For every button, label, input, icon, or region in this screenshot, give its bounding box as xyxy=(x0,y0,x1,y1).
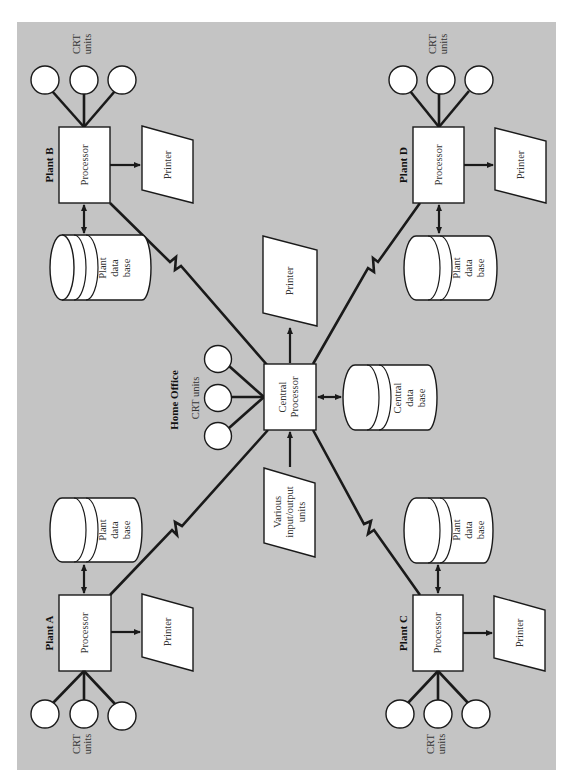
printer-label: Printer xyxy=(515,150,526,179)
io-units-label: Various xyxy=(272,496,283,528)
plant-label: Plant A xyxy=(43,615,55,650)
crt-unit-icon[interactable] xyxy=(462,700,490,728)
crt-unit-icon[interactable] xyxy=(205,346,232,373)
crt-label: units xyxy=(82,34,93,54)
database-label: base xyxy=(121,520,132,539)
database-label: Plant xyxy=(451,257,462,279)
printer-label: Printer xyxy=(162,150,173,179)
database-label: data xyxy=(463,259,474,277)
crt-unit-icon[interactable] xyxy=(424,700,452,728)
crt-unit-icon[interactable] xyxy=(205,385,232,412)
crt-label: CRT xyxy=(427,34,438,54)
database-label: Plant xyxy=(97,519,108,541)
central-processor-label: Central xyxy=(277,381,288,412)
home-office-label: Home Office xyxy=(168,370,180,430)
processor-label: Processor xyxy=(432,612,443,653)
database-label: Plant xyxy=(451,519,462,541)
printer-label: Printer xyxy=(284,266,295,295)
database-label: base xyxy=(475,258,486,277)
crt-label: CRT xyxy=(425,734,436,754)
io-units-label: units xyxy=(296,502,307,522)
database-label: Central xyxy=(392,382,403,413)
crt-unit-icon[interactable] xyxy=(70,66,98,94)
database-label: data xyxy=(109,521,120,539)
plant-label: Plant B xyxy=(43,147,55,183)
printer-label: Printer xyxy=(162,617,173,646)
database-label: base xyxy=(416,388,427,407)
printer-label: Printer xyxy=(514,618,525,647)
database-label: data xyxy=(463,521,474,539)
crt-label: CRT xyxy=(71,734,82,754)
crt-unit-icon[interactable] xyxy=(108,702,136,730)
crt-unit-icon[interactable] xyxy=(427,66,455,94)
crt-unit-icon[interactable] xyxy=(465,66,493,94)
database-label: base xyxy=(475,520,486,539)
crt-label: CRT xyxy=(71,34,82,54)
database-label: data xyxy=(404,389,415,407)
database-label: data xyxy=(109,259,120,277)
crt-unit-icon[interactable] xyxy=(31,66,59,94)
plant-label: Plant D xyxy=(397,147,409,183)
crt-unit-icon[interactable] xyxy=(70,700,98,728)
database-label: base xyxy=(121,258,132,277)
processor-label: Processor xyxy=(79,144,90,185)
crt-unit-icon[interactable] xyxy=(389,66,417,94)
crt-unit-icon[interactable] xyxy=(386,700,414,728)
crt-label: units xyxy=(82,734,93,754)
database-label: Plant xyxy=(97,257,108,279)
io-units-label: input/output xyxy=(284,486,295,537)
crt-unit-icon[interactable] xyxy=(108,66,136,94)
crt-label: units xyxy=(436,734,447,754)
crt-label: CRT units xyxy=(190,377,201,420)
network-diagram: CRT units Plant B Processor Printer Plan… xyxy=(0,0,567,784)
plant-label: Plant C xyxy=(397,615,409,651)
crt-unit-icon[interactable] xyxy=(205,423,232,450)
crt-unit-icon[interactable] xyxy=(31,700,59,728)
processor-label: Processor xyxy=(433,144,444,185)
central-processor-label: Processor xyxy=(289,376,300,417)
crt-label: units xyxy=(438,34,449,54)
processor-label: Processor xyxy=(79,612,90,653)
